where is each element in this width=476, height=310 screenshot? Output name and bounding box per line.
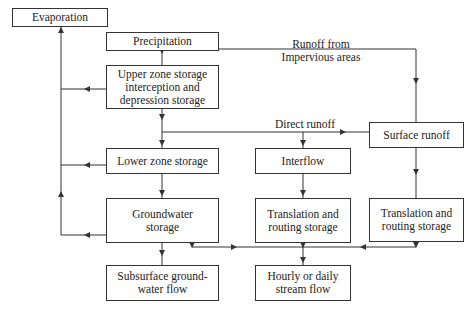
runoff-impervious-line-2: Impervious areas [262, 51, 380, 64]
node-translation-routing-mid: Translation and routing storage [255, 198, 351, 243]
node-evaporation-label: Evaporation [32, 11, 88, 24]
translation-mid-line-2: routing storage [268, 221, 337, 234]
node-subsurface-flow: Subsurface ground- water flow [106, 265, 219, 301]
node-surface-runoff: Surface runoff [369, 122, 464, 148]
edge-label-runoff-impervious: Runoff from Impervious areas [262, 38, 380, 64]
node-evaporation: Evaporation [12, 8, 108, 27]
runoff-impervious-line-1: Runoff from [262, 38, 380, 51]
subsurface-line-2: water flow [138, 283, 188, 296]
node-interflow-label: Interflow [282, 155, 325, 168]
translation-right-line-1: Translation and [381, 207, 452, 220]
node-lower-zone-storage: Lower zone storage [106, 148, 219, 174]
node-precipitation: Precipitation [106, 32, 219, 51]
node-surface-runoff-label: Surface runoff [383, 129, 450, 142]
hourly-line-2: stream flow [276, 283, 331, 296]
edge-label-direct-runoff: Direct runoff [270, 118, 340, 131]
node-translation-routing-right: Translation and routing storage [369, 198, 464, 242]
node-precipitation-label: Precipitation [133, 35, 192, 48]
node-interflow: Interflow [255, 148, 351, 174]
connector-lines [0, 0, 476, 310]
node-groundwater-storage: Groundwater storage [106, 198, 219, 243]
upper-zone-line-1: Upper zone storage [118, 68, 207, 81]
node-upper-zone-storage: Upper zone storage interception and depr… [106, 65, 219, 109]
node-lower-zone-label: Lower zone storage [117, 155, 208, 168]
node-hourly-daily-streamflow: Hourly or daily stream flow [255, 265, 351, 301]
upper-zone-line-2: interception and [125, 81, 199, 94]
translation-right-line-2: routing storage [382, 220, 451, 233]
subsurface-line-1: Subsurface ground- [117, 270, 207, 283]
direct-runoff-text: Direct runoff [275, 118, 335, 130]
hydrologic-flowchart: Evaporation Precipitation Upper zone sto… [0, 0, 476, 310]
groundwater-line-2: storage [146, 221, 179, 234]
groundwater-line-1: Groundwater [132, 208, 193, 221]
translation-mid-line-1: Translation and [267, 208, 338, 221]
upper-zone-line-3: depression storage [120, 94, 205, 107]
hourly-line-1: Hourly or daily [268, 270, 339, 283]
